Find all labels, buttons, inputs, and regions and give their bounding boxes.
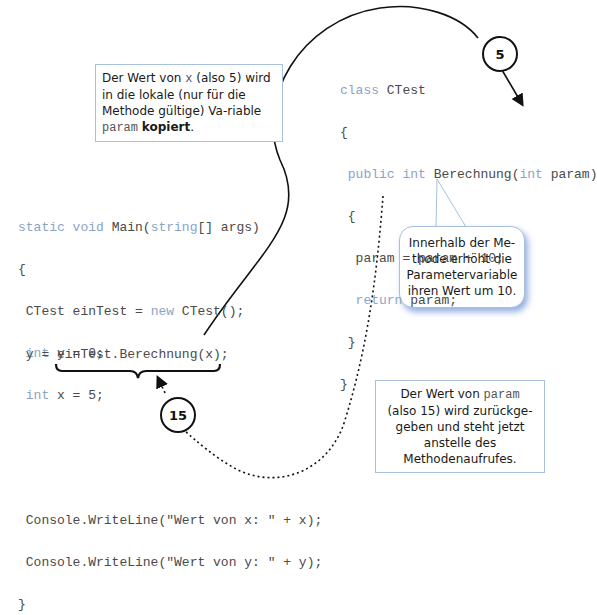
code-line: return param; [340,290,597,311]
code-line: { [340,122,597,143]
class-code-block: class CTest { public int Berechnung(int … [340,59,597,416]
parameter-copy-note: Der Wert von x (also 5) wird in die loka… [95,64,283,142]
method-call-line: y = einTest.Berechnung(x); [18,344,229,365]
code-line: public int Berechnung(int param) [340,164,597,185]
code-line: Console.WriteLine("Wert von y: " + y); [18,552,322,573]
output-code-block: Console.WriteLine("Wert von x: " + x); C… [18,489,322,615]
code-line: { [18,259,260,280]
code-line: static void Main(string[] args) [18,217,260,238]
code-line: param = param + 10; [340,248,597,269]
main-code-block: static void Main(string[] args) { CTest … [18,196,260,427]
var-param: param [102,121,138,135]
code-line: CTest einTest = new CTest(); [18,301,260,322]
code-line: { [340,206,597,227]
code-line: } [340,332,597,353]
code-line: } [18,594,322,615]
code-line: int x = 5; [18,385,260,406]
code-line: class CTest [340,80,597,101]
code-line: Console.WriteLine("Wert von x: " + x); [18,510,322,531]
code-line: } [340,374,597,395]
